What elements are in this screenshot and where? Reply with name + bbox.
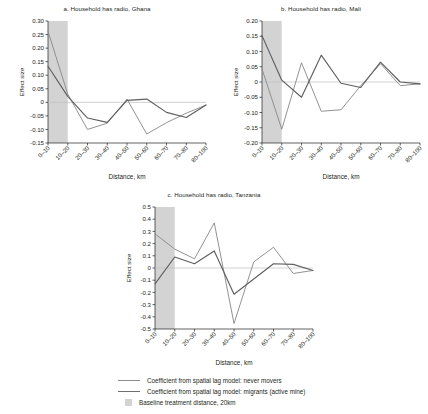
series-line-never-movers [262, 63, 420, 129]
series-line-never-movers [155, 223, 313, 324]
x-axis-tick-label: 30–40 [93, 144, 110, 161]
y-axis-tick-label: 0.10 [246, 48, 258, 55]
y-axis-tick-label: 0.10 [32, 71, 44, 78]
x-axis-tick-label: 50–60 [240, 330, 257, 347]
y-axis-tick-label: 0 [148, 264, 152, 271]
x-axis-tick-label: 60–70 [152, 144, 169, 161]
y-axis-tick-label: -0.4 [140, 313, 151, 320]
x-axis-tick-label: 70–80 [172, 144, 189, 161]
legend-line-swatch-never-movers [118, 380, 140, 381]
chart-panel-mali: b. Household has radio, Mali 0.200.150.1… [214, 0, 428, 186]
y-axis-tick-label: 0.30 [32, 17, 44, 24]
x-axis-tick-label: 20–30 [180, 330, 197, 347]
y-axis-tick-label: 0.20 [246, 17, 258, 24]
x-axis-tick-label: 70–80 [279, 330, 296, 347]
y-axis-tick-label: -0.2 [140, 289, 151, 296]
legend-label-baseline: Baseline treatment distance, 20km [139, 399, 236, 407]
legend-item-never-movers: Coefficient from spatial lag model: neve… [118, 375, 282, 386]
y-axis-tick-label: -0.15 [30, 139, 45, 146]
legend-line-swatch-migrants [118, 391, 140, 392]
y-axis-tick-label: 0 [41, 98, 45, 105]
legend-label-migrants: Coefficient from spatial lag model: migr… [147, 388, 305, 396]
y-axis-tick-label: -0.3 [140, 301, 151, 308]
figure-legend: Coefficient from spatial lag model: neve… [0, 374, 428, 414]
legend-box-swatch-baseline [125, 399, 132, 406]
x-axis-tick-label: 20–30 [73, 144, 90, 161]
x-axis-tick-label: 10–20 [54, 144, 71, 161]
y-axis-tick-label: 0.05 [32, 85, 44, 92]
y-axis-tick-label: 0.4 [143, 215, 152, 222]
y-axis-tick-label: -0.10 [244, 109, 259, 116]
y-axis-tick-label: 0 [255, 78, 259, 85]
series-line-migrants [48, 66, 206, 122]
x-axis-tick-label: 80–100 [297, 330, 317, 350]
x-axis-title: Distance, km [323, 173, 360, 180]
x-axis-title: Distance, km [216, 359, 253, 366]
y-axis-tick-label: 0.20 [32, 44, 44, 51]
x-axis-tick-label: 60–70 [366, 144, 383, 161]
x-axis-tick-label: 30–40 [200, 330, 217, 347]
figure-household-has-radio: a. Household has radio, Ghana 0.300.250.… [0, 0, 428, 414]
y-axis-tick-label: -0.1 [140, 276, 151, 283]
x-axis-title: Distance, km [109, 173, 146, 180]
x-axis-tick-label: 30–40 [307, 144, 324, 161]
y-axis-tick-label: 0.15 [246, 32, 258, 39]
y-axis-tick-label: 0.05 [246, 63, 258, 70]
legend-label-never-movers: Coefficient from spatial lag model: neve… [147, 377, 282, 385]
x-axis-tick-label: 60–70 [259, 330, 276, 347]
y-axis-tick-label: 0.5 [143, 203, 152, 210]
x-axis-tick-label: 50–60 [133, 144, 150, 161]
legend-item-baseline-band: Baseline treatment distance, 20km [118, 397, 236, 408]
x-axis-tick-label: 80–100 [190, 144, 210, 164]
x-axis-tick-label: 10–20 [161, 330, 178, 347]
x-axis-tick-label: 70–80 [386, 144, 403, 161]
chart-plot-mali: 0.200.150.100.050-0.05-0.10-0.15-0.200–1… [214, 0, 428, 186]
y-axis-tick-label: -0.05 [30, 112, 45, 119]
chart-plot-ghana: 0.300.250.200.150.100.050-0.05-0.10-0.15… [0, 0, 214, 186]
y-axis-tick-label: -0.10 [30, 126, 45, 133]
x-axis-tick-label: 50–60 [347, 144, 364, 161]
x-axis-tick-label: 40–50 [327, 144, 344, 161]
chart-panel-tanzania: c. Household has radio, Tanzania 0.50.40… [107, 186, 321, 372]
x-axis-tick-label: 40–50 [220, 330, 237, 347]
y-axis-tick-label: 0.15 [32, 58, 44, 65]
series-line-migrants [262, 36, 420, 98]
legend-item-migrants: Coefficient from spatial lag model: migr… [118, 386, 305, 397]
x-axis-tick-label: 40–50 [113, 144, 130, 161]
y-axis-tick-label: 0.1 [143, 252, 152, 259]
series-line-migrants [155, 251, 313, 294]
chart-panel-ghana: a. Household has radio, Ghana 0.300.250.… [0, 0, 214, 186]
series-line-never-movers [48, 31, 206, 134]
y-axis-tick-label: -0.15 [244, 124, 259, 131]
y-axis-tick-label: -0.5 [140, 325, 151, 332]
y-axis-title: Effect size [232, 67, 239, 96]
x-axis-tick-label: 10–20 [268, 144, 285, 161]
x-axis-tick-label: 20–30 [287, 144, 304, 161]
y-axis-tick-label: -0.20 [244, 139, 259, 146]
y-axis-tick-label: 0.2 [143, 240, 152, 247]
chart-plot-tanzania: 0.50.40.30.20.10-0.1-0.2-0.3-0.4-0.50–10… [107, 186, 321, 372]
y-axis-tick-label: -0.05 [244, 93, 259, 100]
y-axis-title: Effect size [18, 67, 25, 96]
y-axis-tick-label: 0.3 [143, 228, 152, 235]
y-axis-tick-label: 0.25 [32, 31, 44, 38]
y-axis-title: Effect size [125, 253, 132, 282]
x-axis-tick-label: 80–100 [404, 144, 424, 164]
